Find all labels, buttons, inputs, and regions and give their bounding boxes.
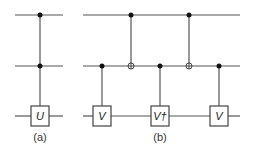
control-dot-vdag xyxy=(158,64,163,69)
cnot-target-2 xyxy=(186,63,192,69)
control-dot-cnot2 xyxy=(187,13,192,18)
control-dot-v1 xyxy=(100,64,105,69)
control-dot-cnot1 xyxy=(129,13,134,18)
control-dot-v2 xyxy=(217,64,222,69)
control-dot-a-2 xyxy=(38,64,43,69)
cnot-target-1 xyxy=(128,63,134,69)
caption-a: (a) xyxy=(33,131,46,143)
gate-vdag-label: V† xyxy=(153,110,166,122)
gate-u-label: U xyxy=(36,110,44,122)
caption-b: (b) xyxy=(153,131,166,143)
quantum-circuit-diagram: U (a) V V† V (b) xyxy=(0,0,253,151)
control-dot-a-1 xyxy=(38,13,43,18)
